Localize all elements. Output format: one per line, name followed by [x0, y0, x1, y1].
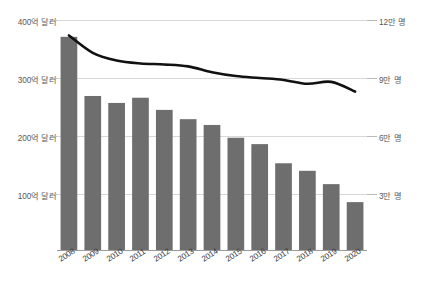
left-axis-tick-400: 400억 달러	[18, 15, 57, 27]
right-axis-tick-12: 12만 명	[379, 15, 406, 27]
left-axis-tick-200: 200억 달러	[18, 131, 57, 143]
bar	[84, 96, 101, 250]
right-axis-tick-3: 3만 명	[379, 189, 401, 201]
left-tick-dash-300	[50, 78, 57, 79]
bar	[228, 138, 245, 250]
left-tick-dash-400	[50, 20, 57, 21]
left-tick-dash-200	[50, 136, 57, 137]
bar	[204, 125, 221, 250]
chart-container: 400억 달러 300억 달러 200억 달러 100억 달러 12만 명 9만…	[0, 0, 421, 294]
bar	[299, 171, 316, 250]
bar	[251, 144, 268, 250]
bar	[323, 184, 340, 250]
right-axis-tick-9: 9만 명	[379, 73, 401, 85]
bar	[156, 110, 173, 250]
bar	[132, 98, 149, 250]
bar	[61, 37, 78, 250]
bars-group	[61, 37, 364, 250]
left-axis-tick-100: 100억 달러	[18, 189, 57, 201]
bar	[347, 202, 364, 250]
left-tick-dash-100	[50, 194, 57, 195]
bar	[108, 103, 125, 250]
bar	[180, 119, 197, 250]
bar	[275, 163, 292, 250]
right-axis-tick-6: 6만 명	[379, 131, 401, 143]
left-axis-tick-300: 300억 달러	[18, 73, 57, 85]
line-series-path	[69, 35, 355, 91]
